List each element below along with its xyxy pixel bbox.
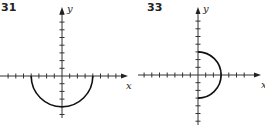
graph-33: x y [132,0,265,130]
y-axis-label: y [202,3,209,14]
graph-31: x y [0,0,132,130]
graph-panel-33: 33 x y [132,0,265,130]
graph-panel-31: 31 x y [0,0,132,130]
x-axis-label: x [261,79,265,90]
y-axis-label: y [66,3,73,14]
